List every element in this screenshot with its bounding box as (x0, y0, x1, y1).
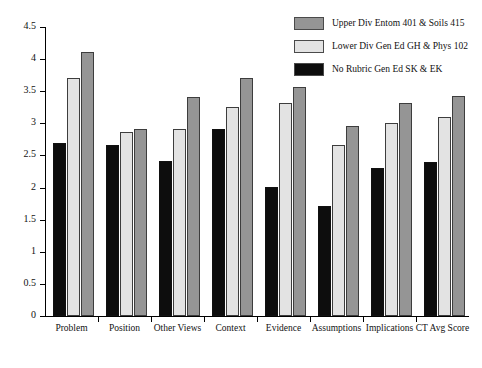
y-tick-label: 2 (31, 181, 36, 193)
bar[interactable] (452, 96, 465, 316)
bar[interactable] (67, 78, 80, 316)
y-tick-mark (40, 91, 46, 92)
y-tick-label: 4.5 (24, 20, 37, 32)
bar-cluster (53, 27, 95, 316)
bar[interactable] (159, 161, 172, 316)
bar-cluster (106, 27, 148, 316)
bar-cluster (371, 27, 413, 316)
bar[interactable] (212, 129, 225, 316)
y-tick-label: 0 (31, 309, 36, 321)
x-tick-mark (151, 316, 152, 322)
bar[interactable] (318, 206, 331, 316)
y-tick-label: 1 (31, 245, 36, 257)
bar[interactable] (120, 132, 133, 316)
y-tick-mark (40, 27, 46, 28)
x-tick-mark (257, 316, 258, 322)
plot-area: 00.511.522.533.544.5 ProblemPositionOthe… (45, 27, 469, 317)
y-axis-line (45, 27, 46, 317)
x-tick-mark (416, 316, 417, 322)
bar[interactable] (81, 52, 94, 316)
y-tick-label: 3.5 (24, 84, 37, 96)
bar[interactable] (265, 187, 278, 316)
y-tick-label: 4 (31, 52, 36, 64)
bar[interactable] (346, 126, 359, 316)
bar-cluster (424, 27, 466, 316)
y-tick-mark (40, 284, 46, 285)
bar-chart: Upper Div Entom 401 & Soils 415Lower Div… (0, 0, 482, 368)
x-tick-mark (98, 316, 99, 322)
bar[interactable] (385, 123, 398, 316)
bar[interactable] (399, 103, 412, 316)
y-tick-mark (40, 220, 46, 221)
y-tick-label: 0.5 (24, 277, 37, 289)
bar[interactable] (293, 87, 306, 316)
bar[interactable] (371, 168, 384, 316)
bar[interactable] (106, 145, 119, 316)
y-tick-label: 2.5 (24, 148, 37, 160)
y-tick-mark (40, 155, 46, 156)
bar[interactable] (173, 129, 186, 316)
bar-cluster (265, 27, 307, 316)
bar[interactable] (53, 143, 66, 316)
bar[interactable] (134, 129, 147, 316)
x-tick-mark (204, 316, 205, 322)
bar[interactable] (226, 107, 239, 316)
bar[interactable] (240, 78, 253, 316)
y-tick-mark (40, 316, 46, 317)
y-tick-label: 3 (31, 116, 36, 128)
x-tick-mark (363, 316, 364, 322)
bar[interactable] (438, 117, 451, 316)
y-tick-label: 1.5 (24, 213, 37, 225)
bar-cluster (212, 27, 254, 316)
bar[interactable] (187, 97, 200, 316)
y-tick-mark (40, 188, 46, 189)
y-tick-mark (40, 123, 46, 124)
x-tick-mark (310, 316, 311, 322)
bar-cluster (159, 27, 201, 316)
bar-cluster (318, 27, 360, 316)
bar[interactable] (424, 162, 437, 316)
bar[interactable] (332, 145, 345, 316)
y-tick-mark (40, 252, 46, 253)
y-tick-mark (40, 59, 46, 60)
bar[interactable] (279, 103, 292, 316)
x-axis-category-label: CT Avg Score (406, 323, 479, 334)
